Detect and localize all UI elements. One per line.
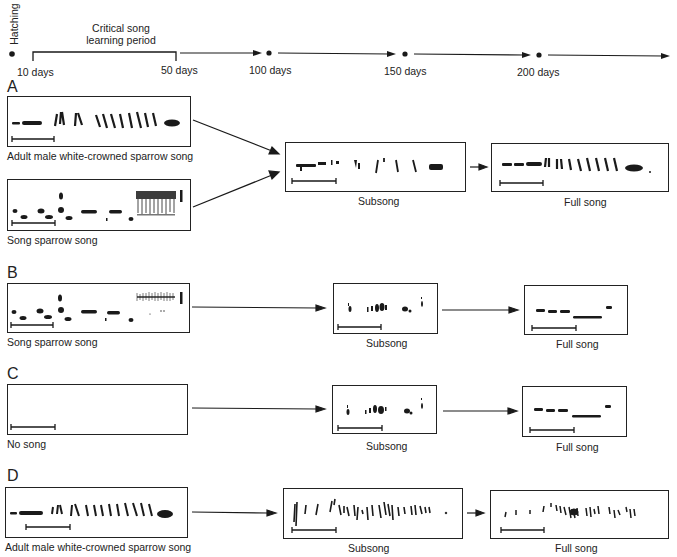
caption-a-subsong: Subsong — [358, 195, 399, 207]
caption-b-subsong: Subsong — [366, 337, 407, 349]
caption-a-ss: Song sparrow song — [7, 234, 97, 246]
caption-c-fullsong: Full song — [556, 441, 599, 453]
c-fullsong-marks — [534, 405, 611, 418]
a-fullsong-marks — [502, 158, 651, 173]
c-subsong-marks — [347, 398, 424, 415]
spectrogram-marks — [0, 0, 677, 557]
b-subsong-marks — [348, 297, 423, 313]
b-fullsong-marks — [536, 306, 612, 319]
caption-a-wcs: Adult male white-crowned sparrow song — [7, 150, 193, 162]
caption-d-fullsong: Full song — [555, 542, 598, 554]
scale-bars — [11, 136, 576, 533]
arrows — [192, 120, 518, 516]
b-ss-song-marks — [12, 292, 183, 322]
caption-c-nosong: No song — [7, 438, 46, 450]
caption-d-subsong: Subsong — [348, 542, 389, 554]
ss-song-marks — [13, 190, 183, 221]
d-wcs-song-marks — [10, 503, 173, 518]
caption-a-fullsong: Full song — [564, 196, 607, 208]
caption-b-ss: Song sparrow song — [7, 336, 97, 348]
wcs-song-marks — [12, 112, 180, 128]
caption-d-wcs: Adult male white-crowned sparrow song — [5, 541, 191, 553]
caption-b-fullsong: Full song — [556, 338, 599, 350]
d-subsong-marks — [294, 499, 430, 526]
caption-c-subsong: Subsong — [366, 440, 407, 452]
a-subsong-marks — [296, 158, 443, 173]
